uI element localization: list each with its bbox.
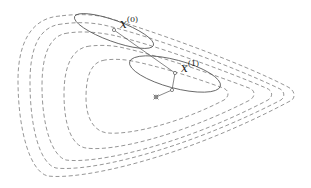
contour-line-4: [64, 45, 254, 148]
label-x1: x(1): [181, 59, 199, 75]
iterate-point-x0: [112, 28, 115, 31]
iterate-point-x1: [173, 71, 176, 74]
optimum-marker-icon: [154, 95, 159, 100]
contour-diagram: x(0) x(1): [0, 0, 311, 188]
iterate-point-2: [170, 88, 173, 91]
